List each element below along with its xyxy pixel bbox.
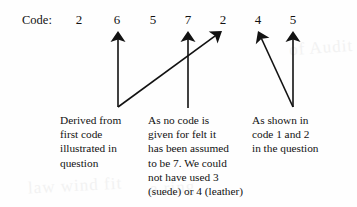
arrow-to-digit-2-shaft: [118, 36, 216, 107]
annotation-right: As shown in code 1 and 2 in the question: [252, 113, 352, 156]
diagram-canvas: of Audit law wind fit a ring Code: 2 6 5…: [0, 0, 357, 207]
arrow-to-digit-2-head: [209, 31, 222, 44]
annotation-left: Derived from first code illustrated in q…: [60, 113, 146, 170]
arrow-to-digit-4-shaft: [261, 38, 293, 107]
annotation-middle: As no code is given for felt it has been…: [148, 113, 252, 198]
